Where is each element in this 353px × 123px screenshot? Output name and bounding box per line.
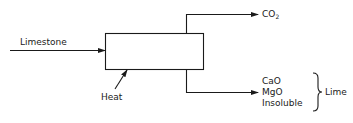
lime-group-label: Lime: [325, 87, 347, 97]
process-box: [106, 34, 204, 70]
co2-text: CO: [262, 9, 275, 19]
heat-arrow: [115, 70, 127, 89]
co2-label: CO2: [262, 9, 279, 22]
limestone-label: Limestone: [20, 37, 67, 47]
process-flow-diagram: Limestone Heat CO2 CaO MgO Insoluble Lim…: [0, 0, 353, 123]
lime-brace: [313, 73, 322, 111]
lime-outlet-arrow: [187, 70, 259, 93]
co2-subscript: 2: [275, 13, 279, 20]
cao-label: CaO: [262, 76, 281, 86]
co2-outlet-arrow: [187, 15, 259, 34]
mgo-label: MgO: [262, 87, 283, 97]
insoluble-label: Insoluble: [262, 98, 303, 108]
heat-label: Heat: [101, 92, 122, 102]
